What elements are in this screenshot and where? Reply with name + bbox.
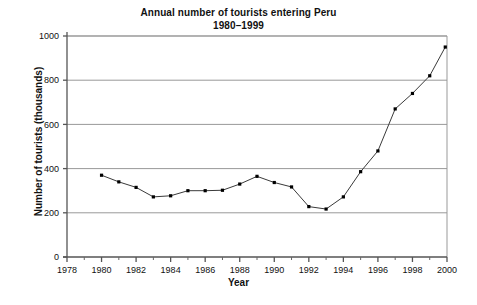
data-point: [169, 194, 172, 197]
data-point: [307, 205, 310, 208]
data-point: [117, 180, 120, 183]
data-point: [273, 181, 276, 184]
data-point: [376, 149, 379, 152]
x-tick-label: 1978: [57, 265, 77, 275]
data-point: [204, 189, 207, 192]
data-point: [428, 74, 431, 77]
data-point: [100, 174, 103, 177]
x-tick-label: 1994: [333, 265, 353, 275]
y-tick-label: 800: [44, 75, 59, 85]
plot-area: 0200400600800100019781980198219841986198…: [0, 0, 477, 305]
x-tick-label: 1990: [264, 265, 284, 275]
data-point: [324, 207, 327, 210]
data-point: [342, 195, 345, 198]
x-axis-label: Year: [0, 277, 477, 288]
y-axis-label: Number of tourists (thousands): [33, 42, 44, 242]
data-point: [411, 92, 414, 95]
data-point: [221, 189, 224, 192]
data-line: [102, 47, 446, 209]
data-point: [134, 186, 137, 189]
x-tick-label: 1992: [299, 265, 319, 275]
x-tick-label: 1986: [195, 265, 215, 275]
data-point: [290, 185, 293, 188]
x-tick-label: 1980: [92, 265, 112, 275]
x-tick-label: 1984: [161, 265, 181, 275]
x-tick-label: 1988: [230, 265, 250, 275]
data-point: [238, 182, 241, 185]
chart-svg: 0200400600800100019781980198219841986198…: [0, 0, 477, 305]
y-tick-label: 400: [44, 164, 59, 174]
data-point: [186, 189, 189, 192]
x-tick-label: 1996: [368, 265, 388, 275]
y-tick-label: 600: [44, 120, 59, 130]
x-tick-label: 1998: [402, 265, 422, 275]
y-tick-label: 1000: [39, 31, 59, 41]
data-point: [359, 170, 362, 173]
y-tick-label: 0: [54, 252, 59, 262]
y-tick-label: 200: [44, 208, 59, 218]
data-point: [152, 195, 155, 198]
x-tick-label: 1982: [126, 265, 146, 275]
data-point: [394, 107, 397, 110]
data-point: [444, 45, 447, 48]
chart-figure: Annual number of tourists entering Peru …: [0, 0, 477, 305]
x-tick-label: 2000: [437, 265, 457, 275]
data-point: [255, 175, 258, 178]
